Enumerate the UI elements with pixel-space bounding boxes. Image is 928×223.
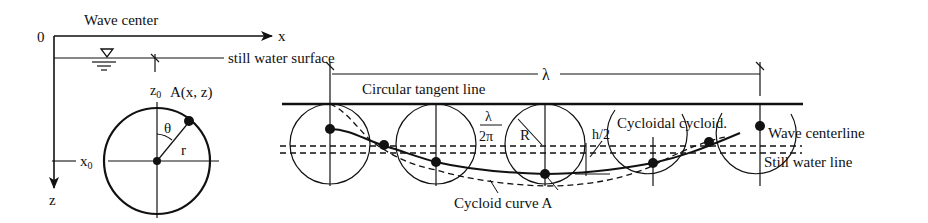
origin-label: 0 <box>37 29 45 45</box>
cycloid-point <box>379 140 389 150</box>
theta-label: θ <box>164 120 171 136</box>
cycloid-point <box>755 121 765 131</box>
tangent-line-label: Circular tangent line <box>362 81 486 97</box>
x-axis-label: x <box>278 28 286 44</box>
point-a-label: A(x, z) <box>170 84 212 101</box>
cycloid-point <box>431 157 441 167</box>
cycloid-point <box>540 169 550 179</box>
radius-r-label: R <box>520 127 530 143</box>
wave-center-title: Wave center <box>84 12 158 28</box>
cycloid-point <box>648 158 658 168</box>
still-water-line-label: Still water line <box>764 154 853 170</box>
cycloid-point <box>325 124 335 134</box>
cycloid-point <box>704 137 714 147</box>
radius-label: r <box>181 142 186 158</box>
radius-fraction-denominator: 2π <box>479 129 493 144</box>
cycloid-curve-a-label: Cycloid curve A <box>454 195 552 211</box>
z0-label: z0 <box>150 83 161 100</box>
cycloidal-wave-curve <box>330 129 740 174</box>
z-axis-label: z <box>49 192 56 208</box>
cycloid-curve-a-leader <box>490 180 498 193</box>
water-level-symbol-icon <box>92 49 116 70</box>
x0-label: x0 <box>80 153 93 171</box>
orbit-center-dot <box>153 157 161 165</box>
point-a-dot <box>184 116 194 126</box>
wave-centerline-label: Wave centerline <box>768 125 865 141</box>
wave-cycloid-diagram: 0 Wave center x z still water surface z0… <box>0 0 928 223</box>
wavelength-label: λ <box>542 66 550 83</box>
left-panel: 0 Wave center x z still water surface z0… <box>37 12 335 218</box>
radius-fraction-numerator: λ <box>485 109 492 124</box>
half-height-label: h/2 <box>592 127 610 142</box>
right-panel: λ Circular tangent line <box>280 62 865 211</box>
still-water-surface-label: still water surface <box>228 50 335 66</box>
cycloidal-cycloid-label: Cycloidal cycloid. <box>617 115 727 131</box>
